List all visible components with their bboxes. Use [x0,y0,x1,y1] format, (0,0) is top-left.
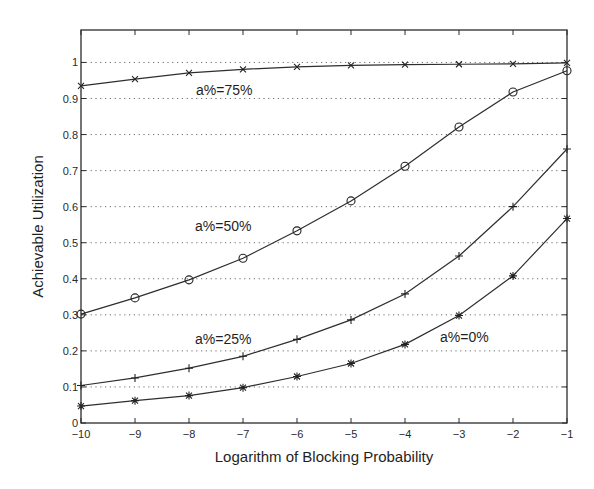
series-a25 [77,145,571,390]
y-tick-label: 0.9 [63,93,78,105]
y-axis-title: Achievable Utilization [29,155,46,298]
x-tick-label: −6 [291,428,304,440]
y-tick-label: 0.2 [63,345,78,357]
series-annotation: a%=75% [196,82,252,98]
x-tick-labels: −10−9−8−7−6−5−4−3−2−1 [72,428,574,440]
x-tick-label: −5 [345,428,358,440]
series-a75 [78,60,570,89]
plot-frame [81,30,567,423]
y-tick-label: 0.3 [63,309,78,321]
series-annotation: a%=25% [195,331,251,347]
series-lines [77,60,571,410]
x-tick-label: −7 [237,428,250,440]
x-tick-label: −10 [72,428,91,440]
axis-ticks [81,30,567,423]
series-annotations: a%=75%a%=50%a%=25%a%=0% [195,82,489,347]
y-tick-label: 0.6 [63,201,78,213]
series-annotation: a%=0% [440,329,489,345]
x-tick-label: −8 [183,428,196,440]
y-tick-labels: 00.10.20.30.40.50.60.70.80.91 [63,56,78,429]
y-tick-label: 0 [72,417,78,429]
y-tick-label: 0.1 [63,381,78,393]
series-annotation: a%=50% [195,218,251,234]
y-tick-label: 0.7 [63,165,78,177]
series-a0 [77,215,571,410]
x-tick-label: −9 [129,428,142,440]
y-tick-label: 1 [72,56,78,68]
x-axis-title: Logarithm of Blocking Probability [215,448,434,465]
x-tick-label: −2 [507,428,520,440]
x-tick-label: −3 [453,428,466,440]
x-tick-label: −1 [561,428,574,440]
line-chart: −10−9−8−7−6−5−4−3−2−1 00.10.20.30.40.50.… [0,0,594,489]
x-tick-label: −4 [399,428,412,440]
y-tick-label: 0.4 [63,273,78,285]
series-a50 [77,67,571,318]
y-tick-label: 0.5 [63,237,78,249]
y-tick-label: 0.8 [63,129,78,141]
